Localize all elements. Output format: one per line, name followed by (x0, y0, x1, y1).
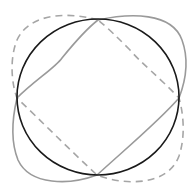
diagram-canvas (0, 0, 194, 192)
solid-gray-curve (13, 16, 186, 182)
black-circle (17, 19, 179, 175)
dashed-gray-curve (12, 15, 183, 181)
curves-diagram (0, 0, 194, 192)
